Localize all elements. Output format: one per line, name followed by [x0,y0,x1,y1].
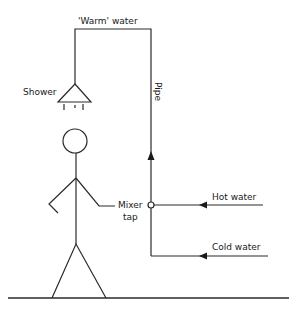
shower-label: Shower [23,87,57,97]
right-arm-line [76,178,115,206]
cold-water-label: Cold water [212,242,261,252]
shower-diagram: 'Warm' water Pipe Shower Mixer tap Hot w… [0,0,289,314]
mixer-tap-icon [148,202,154,208]
shower-head [58,84,91,110]
person-figure [49,129,115,298]
mixer-tap-label-line2: tap [123,212,138,222]
pipe-label: Pipe [153,82,163,101]
warm-water-label: 'Warm' water [78,16,138,26]
warm-water-pipe [75,29,151,202]
head-icon [63,129,87,153]
upward-arrow-icon [148,151,155,160]
hot-water-label: Hot water [212,192,257,202]
left-arrow-icon [199,202,207,209]
mixer-tap-label-line1: Mixer [118,200,143,210]
legs-line [52,244,106,298]
left-arm-line [49,178,76,213]
left-arrow-icon [199,253,207,260]
shower-triangle-icon [58,84,91,102]
